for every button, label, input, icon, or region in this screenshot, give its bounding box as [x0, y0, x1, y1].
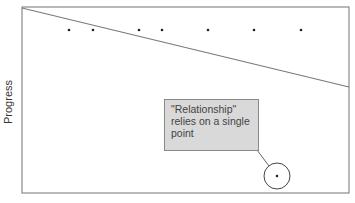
- data-point: [276, 175, 279, 178]
- data-point: [138, 29, 141, 32]
- callout-pointer: [257, 150, 269, 166]
- data-point: [68, 29, 71, 32]
- data-point: [161, 29, 164, 32]
- data-point: [207, 29, 210, 32]
- data-point: [300, 29, 303, 32]
- trend-line: [22, 8, 349, 87]
- annotation-callout: "Relationship" relies on a single point: [164, 99, 259, 151]
- data-point: [253, 29, 256, 32]
- y-axis-label: Progress: [2, 72, 14, 132]
- data-point: [92, 29, 95, 32]
